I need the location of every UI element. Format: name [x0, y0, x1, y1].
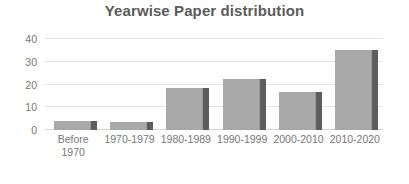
x-tick-label: 2000-2010: [270, 133, 326, 146]
x-tick-label: Before 1970: [45, 133, 101, 159]
bar-shadow: [316, 92, 322, 130]
x-tick-label: 1990-1999: [214, 133, 270, 146]
bar-slot: [54, 39, 91, 130]
y-tick-label: 10: [3, 102, 37, 113]
chart-title: Yearwise Paper distribution: [0, 1, 409, 20]
y-axis: 010203040: [0, 0, 45, 184]
bar[interactable]: [166, 88, 203, 130]
x-axis: Before 19701970-19791980-19891990-199920…: [45, 133, 383, 183]
x-tick-label: 1980-1989: [158, 133, 214, 146]
x-tick-label: 2010-2020: [327, 133, 383, 146]
bars-layer: [45, 39, 383, 130]
bar[interactable]: [279, 92, 316, 130]
bar-chart: Yearwise Paper distribution 010203040 Be…: [0, 0, 409, 184]
bar-shadow: [372, 50, 378, 130]
bar-slot: [223, 39, 260, 130]
x-tick-label: 1970-1979: [101, 133, 157, 146]
bar-shadow: [203, 88, 209, 130]
bar-shadow: [91, 121, 97, 130]
bar[interactable]: [335, 50, 372, 130]
bar-slot: [279, 39, 316, 130]
bar-shadow: [260, 79, 266, 130]
bar-slot: [110, 39, 147, 130]
bar[interactable]: [54, 121, 91, 130]
y-tick-label: 30: [3, 57, 37, 68]
y-tick-label: 40: [3, 34, 37, 45]
bar[interactable]: [223, 79, 260, 130]
bar-shadow: [147, 122, 153, 130]
y-tick-label: 20: [3, 80, 37, 91]
bar-slot: [335, 39, 372, 130]
y-tick-label: 0: [3, 125, 37, 136]
bar-slot: [166, 39, 203, 130]
bar[interactable]: [110, 122, 147, 130]
